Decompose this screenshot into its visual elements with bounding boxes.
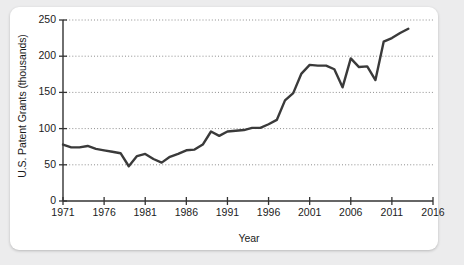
x-tick-label: 1991 <box>207 206 247 218</box>
x-tick-label: 1986 <box>166 206 206 218</box>
x-tick-label: 2001 <box>290 206 330 218</box>
x-tick-label: 1981 <box>125 206 165 218</box>
x-tick-label: 1976 <box>84 206 124 218</box>
x-tick-label: 1971 <box>43 206 83 218</box>
x-tick-labels: 1971197619811986199119962001200620112016 <box>0 0 464 265</box>
x-tick-label: 2016 <box>413 206 453 218</box>
x-tick-label: 1996 <box>249 206 289 218</box>
x-tick-label: 2011 <box>372 206 412 218</box>
x-tick-label: 2006 <box>331 206 371 218</box>
